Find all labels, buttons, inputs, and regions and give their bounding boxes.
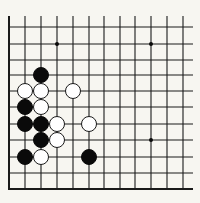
black-stone[interactable] (18, 100, 33, 115)
white-stone[interactable] (34, 100, 49, 115)
black-stone[interactable] (18, 117, 33, 132)
white-stone[interactable] (34, 150, 49, 165)
star-point-icon (149, 42, 153, 46)
black-stone[interactable] (82, 150, 97, 165)
black-stone[interactable] (34, 68, 49, 83)
star-point-icon (55, 42, 59, 46)
black-stone[interactable] (34, 117, 49, 132)
white-stone[interactable] (50, 117, 65, 132)
black-stone[interactable] (18, 150, 33, 165)
white-stone[interactable] (18, 84, 33, 99)
black-stone[interactable] (34, 133, 49, 148)
white-stone[interactable] (50, 133, 65, 148)
white-stone[interactable] (82, 117, 97, 132)
white-stone[interactable] (34, 84, 49, 99)
star-point-icon (149, 138, 153, 142)
white-stone[interactable] (66, 84, 81, 99)
go-board[interactable] (0, 0, 200, 203)
